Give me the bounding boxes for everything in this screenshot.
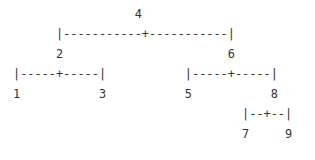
tree-line-level-1: 2 6 [13,44,292,64]
tree-connector-level-1: |-----+-----| |-----+-----| [13,64,292,84]
tree-connector-level-2: |--+--| [13,104,292,124]
tree-line-level-2: 1 3 5 8 [13,84,292,104]
tree-line-root: 4 [13,4,292,24]
tree-connector-root: |-----------+-----------| [13,24,292,44]
ascii-tree-diagram: 4 |-----------+-----------| 2 6|-----+--… [13,4,292,144]
tree-line-level-3: 7 9 [13,124,292,144]
